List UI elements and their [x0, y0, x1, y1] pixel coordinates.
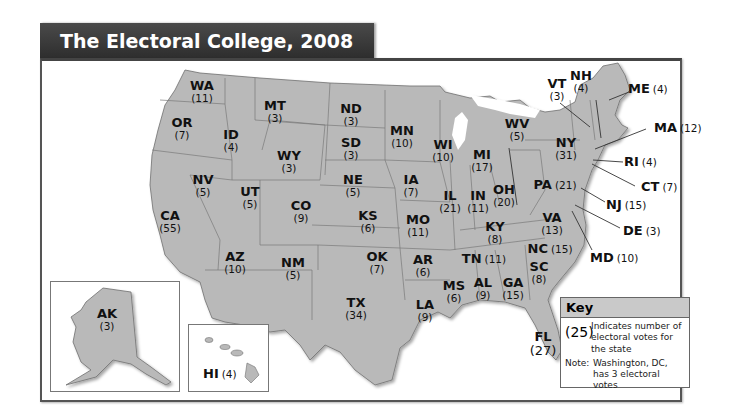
key-description: Indicates number of electoral votes for … [591, 321, 685, 355]
state-label-co: CO(9) [286, 199, 316, 224]
state-label-ks: KS(6) [353, 209, 383, 234]
state-label-ar: AR(6) [408, 253, 438, 278]
hawaii-inset [188, 324, 269, 392]
state-label-or: OR(7) [167, 116, 197, 141]
state-label-nh: NH(4) [566, 69, 596, 94]
state-label-mo: MO(11) [403, 213, 433, 238]
state-label-ia: IA(7) [396, 173, 426, 198]
key-title: Key [561, 298, 689, 318]
state-label-nm: NM(5) [278, 256, 308, 281]
state-label-de: DE(3) [623, 222, 673, 239]
state-label-ut: UT(5) [235, 185, 265, 210]
state-label-fl: FL(27) [528, 330, 558, 357]
state-label-me: ME(4) [628, 80, 678, 97]
key-sample-value: (25) [565, 321, 591, 355]
state-label-nj: NJ(15) [606, 196, 666, 213]
state-label-id: ID(4) [216, 128, 246, 153]
state-label-va: VA(13) [537, 211, 567, 236]
state-label-nd: ND(3) [336, 102, 366, 127]
state-label-nv: NV(5) [188, 173, 218, 198]
state-label-ny: NY(31) [551, 136, 581, 161]
state-label-oh: OH(20) [489, 183, 519, 208]
key-note-text: Washington, DC, has 3 electoral votes [593, 358, 685, 392]
state-label-ak: AK(3) [92, 307, 122, 332]
state-label-ky: KY(8) [480, 220, 510, 245]
state-label-la: LA(9) [410, 298, 440, 323]
state-label-wa: WA(11) [187, 79, 217, 104]
state-label-mt: MT(3) [260, 99, 290, 124]
map-key: Key (25) Indicates number of electoral v… [560, 297, 690, 388]
state-label-tx: TX(34) [341, 296, 371, 321]
state-label-sd: SD(3) [336, 136, 366, 161]
state-label-wi: WI(10) [428, 138, 458, 163]
state-label-il: IL(21) [435, 189, 465, 214]
state-label-ne: NE(5) [338, 173, 368, 198]
alaska-inset [50, 281, 180, 392]
state-label-mn: MN(10) [387, 124, 417, 149]
state-label-al: AL(9) [468, 276, 498, 301]
alaska-shape [51, 282, 179, 390]
state-label-ok: OK(7) [362, 250, 392, 275]
state-label-hi: HI(4) [203, 365, 253, 382]
state-label-nc: NC(15) [520, 240, 580, 257]
state-label-az: AZ(10) [220, 250, 250, 275]
state-label-mi: MI(17) [467, 148, 497, 173]
state-label-ct: CT(7) [641, 178, 691, 195]
state-label-ca: CA(55) [155, 209, 185, 234]
state-label-md: MD(10) [590, 249, 650, 266]
state-label-pa: PA(21) [525, 176, 585, 193]
state-label-wy: WY(3) [274, 149, 304, 174]
key-note-label: Note: [565, 358, 593, 392]
state-label-wv: WV(5) [502, 117, 532, 142]
state-label-tn: TN(11) [454, 250, 514, 267]
state-label-ma: MA(12) [654, 119, 724, 136]
state-label-ms: MS(6) [439, 279, 469, 304]
state-label-sc: SC(8) [524, 260, 554, 285]
state-label-ri: RI(4) [624, 153, 674, 170]
